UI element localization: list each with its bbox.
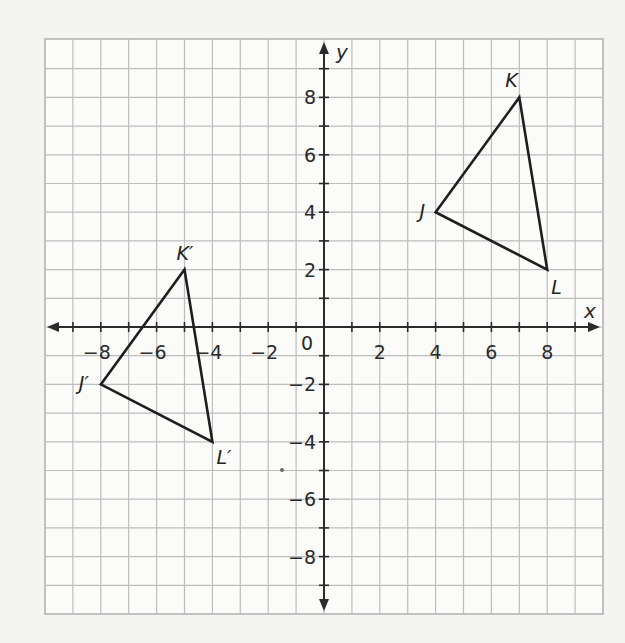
x-tick-label: 8 [541,341,553,363]
y-tick-label: 2 [304,259,316,281]
coordinate-plane: −8−6−4−224688642−2−4−6−80yx JKLJ′K′L′ [0,0,625,643]
x-tick-label: −2 [250,341,278,363]
origin-label: 0 [301,332,313,354]
y-tick-label: −2 [288,373,316,395]
vertex-label: K′ [177,242,194,264]
y-tick-label: 4 [304,201,316,223]
x-tick-label: 2 [374,341,386,363]
x-tick-label: −8 [83,341,111,363]
x-axis-label: x [583,299,596,323]
y-tick-label: −6 [288,488,316,510]
y-tick-label: 6 [304,144,316,166]
vertex-label: L′ [216,446,232,468]
y-tick-label: −4 [288,431,316,453]
vertex-label: L [551,276,562,298]
x-tick-label: 4 [430,341,442,363]
y-tick-label: −8 [288,546,316,568]
y-tick-label: 8 [304,86,316,108]
stray-dot [280,468,284,472]
y-axis-label: y [335,40,349,64]
x-tick-label: 6 [485,341,497,363]
vertex-label: K [505,69,519,91]
x-tick-label: −6 [139,341,167,363]
